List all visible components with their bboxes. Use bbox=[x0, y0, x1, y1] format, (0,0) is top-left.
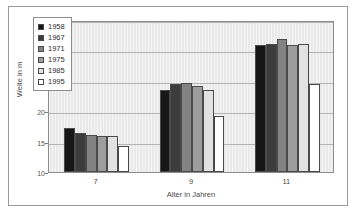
bar bbox=[118, 146, 129, 172]
legend-item: 1995 bbox=[38, 76, 65, 87]
bar bbox=[266, 44, 277, 172]
bar bbox=[64, 128, 75, 172]
gridline bbox=[49, 22, 333, 23]
legend-label: 1967 bbox=[48, 34, 65, 42]
bar bbox=[86, 135, 97, 172]
legend-item: 1958 bbox=[38, 21, 65, 32]
legend-item: 1985 bbox=[38, 65, 65, 76]
bar bbox=[170, 84, 181, 172]
legend-swatch-icon bbox=[38, 46, 44, 52]
x-axis-title: Alter in Jahren bbox=[48, 190, 334, 199]
bar bbox=[298, 44, 309, 172]
bar bbox=[192, 86, 203, 172]
bar bbox=[309, 84, 320, 172]
y-tick-mark bbox=[45, 173, 48, 174]
legend: 195819671971197519851995 bbox=[33, 17, 72, 91]
y-tick-label: 15 bbox=[11, 139, 45, 146]
x-tick-label: 11 bbox=[282, 177, 290, 186]
bar bbox=[160, 90, 171, 172]
legend-label: 1971 bbox=[48, 45, 65, 53]
legend-label: 1995 bbox=[48, 78, 65, 86]
bar bbox=[97, 136, 108, 172]
legend-item: 1975 bbox=[38, 54, 65, 65]
legend-swatch-icon bbox=[38, 57, 44, 63]
y-tick-label: 10 bbox=[11, 170, 45, 177]
legend-label: 1985 bbox=[48, 67, 65, 75]
y-tick-label: 20 bbox=[11, 109, 45, 116]
chart-frame: Weite in m 101520253035 7911 Alter in Ja… bbox=[8, 6, 348, 206]
legend-label: 1958 bbox=[48, 23, 65, 31]
x-tick-label: 9 bbox=[189, 177, 193, 186]
bar bbox=[107, 136, 118, 172]
bar bbox=[277, 39, 288, 172]
x-axis-tick-labels: 7911 bbox=[48, 177, 334, 189]
legend-swatch-icon bbox=[38, 79, 44, 85]
plot-area bbox=[48, 21, 334, 173]
bar bbox=[287, 45, 298, 172]
x-tick-label: 7 bbox=[94, 177, 98, 186]
legend-swatch-icon bbox=[38, 68, 44, 74]
legend-swatch-icon bbox=[38, 35, 44, 41]
bar bbox=[255, 45, 266, 172]
bar bbox=[214, 116, 225, 172]
legend-item: 1967 bbox=[38, 32, 65, 43]
legend-label: 1975 bbox=[48, 56, 65, 64]
bar bbox=[75, 133, 86, 172]
bar bbox=[181, 83, 192, 172]
bar bbox=[203, 90, 214, 172]
legend-swatch-icon bbox=[38, 24, 44, 30]
legend-item: 1971 bbox=[38, 43, 65, 54]
